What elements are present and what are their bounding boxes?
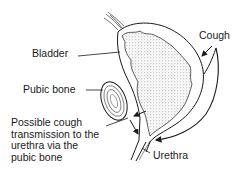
cough-transmission-line-3: urethra via the [11,140,99,152]
urethra [131,140,150,161]
bladder-label: Bladder [32,48,68,60]
ligament-fibers [104,12,124,30]
urethra-label: Urethra [153,150,188,162]
pubic-bone-label: Pubic bone [23,84,76,96]
cough-transmission-line-1: Possible cough [11,117,99,129]
cough-arrow [202,46,212,56]
cough-label: Cough [199,30,230,42]
cough-transmission-label: Possible cough transmission to the ureth… [11,117,99,163]
pubic-bone [96,78,132,124]
pubic-down-arrow [130,120,138,134]
cough-transmission-line-4: pubic bone [11,152,99,164]
